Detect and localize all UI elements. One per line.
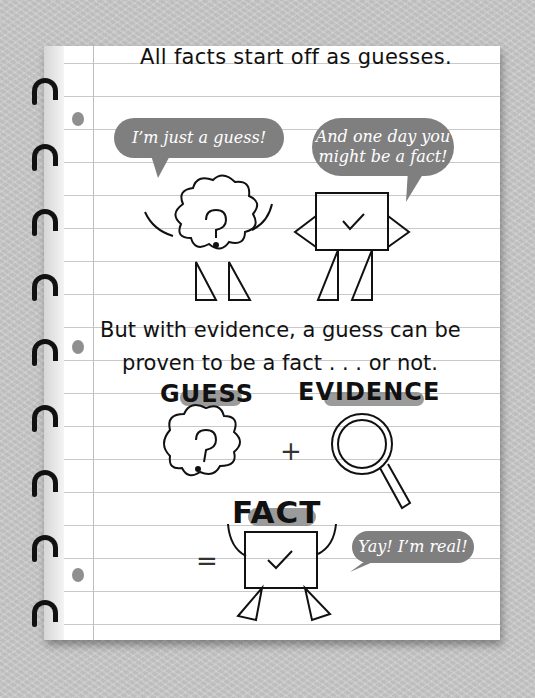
fact-result-character-icon bbox=[228, 524, 336, 620]
illustrations bbox=[0, 0, 535, 698]
guess-cloud-icon bbox=[164, 405, 240, 475]
guess-character-icon bbox=[145, 175, 272, 300]
fact-character-icon bbox=[295, 193, 409, 300]
magnifying-glass-icon bbox=[332, 414, 410, 508]
